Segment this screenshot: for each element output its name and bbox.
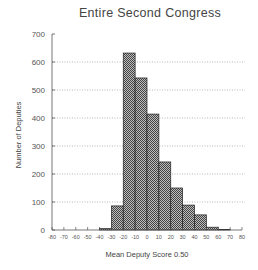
histogram-bar bbox=[183, 205, 195, 230]
histogram-chart: Entire Second Congress 01002003004005006… bbox=[0, 0, 258, 270]
histogram-bar bbox=[171, 188, 183, 230]
x-axis-label: Mean Deputy Score 0.50 bbox=[106, 250, 189, 259]
histogram-bar bbox=[147, 114, 159, 230]
x-tick-label: -40 bbox=[96, 234, 104, 240]
x-tick-label: -30 bbox=[107, 234, 115, 240]
y-tick-label: 200 bbox=[32, 170, 46, 179]
x-tick-label: 40 bbox=[191, 234, 197, 240]
histogram-bar bbox=[206, 227, 218, 230]
y-tick-label: 100 bbox=[32, 198, 46, 207]
y-axis-label: Number of Deputies bbox=[14, 101, 23, 168]
y-tick-label: 0 bbox=[41, 226, 46, 235]
y-tick-label: 600 bbox=[32, 58, 46, 67]
x-tick-label: 30 bbox=[180, 234, 186, 240]
x-tick-label: 50 bbox=[203, 234, 209, 240]
x-tick-label: -50 bbox=[84, 234, 92, 240]
x-tick-label: 80 bbox=[239, 234, 245, 240]
histogram-bar bbox=[123, 53, 135, 230]
histogram-bar bbox=[135, 78, 147, 230]
y-axis-ticks: 0100200300400500600700 bbox=[32, 30, 55, 235]
x-tick-label: -10 bbox=[131, 234, 139, 240]
chart-title: Entire Second Congress bbox=[79, 6, 221, 20]
x-tick-label: -60 bbox=[72, 234, 80, 240]
y-tick-label: 500 bbox=[32, 86, 46, 95]
x-tick-label: 60 bbox=[215, 234, 221, 240]
y-tick-label: 300 bbox=[32, 142, 46, 151]
y-tick-label: 400 bbox=[32, 114, 46, 123]
x-tick-label: 0 bbox=[145, 234, 148, 240]
histogram-bar bbox=[159, 162, 171, 230]
y-tick-label: 700 bbox=[32, 30, 46, 39]
x-tick-label: -20 bbox=[119, 234, 127, 240]
histogram-bars bbox=[100, 53, 231, 230]
histogram-bar bbox=[195, 215, 207, 230]
histogram-bar bbox=[111, 206, 123, 230]
x-tick-label: -70 bbox=[60, 234, 68, 240]
x-tick-label: 70 bbox=[227, 234, 233, 240]
x-tick-label: 10 bbox=[156, 234, 162, 240]
x-tick-label: 20 bbox=[168, 234, 174, 240]
x-tick-label: -80 bbox=[48, 234, 56, 240]
